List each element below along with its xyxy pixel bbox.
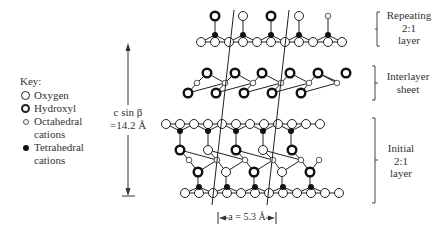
legend-item-octahedral: Octahedral (20, 115, 84, 128)
legend-item-octahedral-line2: cations (20, 128, 84, 141)
octahedral-cation (325, 13, 331, 19)
octahedral-cation (242, 157, 248, 163)
hydroxyl-atom (203, 69, 212, 78)
hydroxyl-atom (342, 69, 351, 78)
hydroxyl-atom (306, 168, 315, 177)
hydroxyl-atom (184, 89, 193, 98)
oxygen-atom (321, 189, 330, 198)
oxygen-atom (309, 38, 318, 47)
octahedral-cation (270, 157, 276, 163)
tetrahedral-cation (224, 184, 230, 190)
tetrahedral-cation (325, 32, 331, 38)
hydroxyl-atom (297, 89, 306, 98)
oxygen-atom (316, 120, 325, 129)
a-dimension-label: a = 5.3 Å (226, 211, 268, 224)
tetrahedral-cation (212, 32, 218, 38)
oxygen-atom (239, 38, 248, 47)
repeating-layer-label: Repeating 2:1 layer (381, 9, 437, 47)
hydroxyl-atom (267, 12, 276, 21)
oxygen-atom (237, 189, 246, 198)
bracket-interlayer (372, 66, 378, 100)
bracket-repeating (375, 12, 380, 46)
octahedral-cation (316, 157, 322, 163)
tetrahedral-cation (308, 184, 314, 190)
tetrahedral-cation (177, 128, 183, 134)
hydroxyl-atom (258, 69, 267, 78)
legend-item-tetrahedral: Tetrahedral (20, 141, 84, 154)
legend-item-hydroxyl: Hydroxyl (20, 102, 84, 115)
tetrahedral-cation (205, 128, 211, 134)
initial-line2: 2:1 (379, 155, 423, 168)
octahedral-cation (334, 80, 340, 86)
tetrahedral-cation (268, 32, 274, 38)
oxygen-atom (338, 38, 347, 47)
oxygen-atom (295, 38, 304, 47)
octahedral-cation (222, 80, 228, 86)
oxygen-atom (225, 38, 234, 47)
tetrahedral-cation (240, 32, 246, 38)
hydroxyl-atom (314, 69, 323, 78)
oxygen-atom (204, 120, 213, 129)
oxygen-atom (232, 120, 241, 129)
octahedral-cation (194, 80, 200, 86)
repeating-line1: Repeating (381, 9, 437, 22)
oxygen-atom (222, 168, 231, 177)
c-sin-beta-line1: c sin β (104, 106, 152, 119)
interlayer-line2: sheet (379, 83, 437, 96)
oxygen-atom (295, 12, 304, 21)
oxygen-atom (211, 38, 220, 47)
hydroxyl-atom (288, 146, 297, 155)
initial-line1: Initial (379, 142, 423, 155)
tetrahedral-cation (252, 184, 258, 190)
c-sin-beta-label: c sin β =14.2 Å (104, 106, 152, 131)
hydroxyl-atom (231, 69, 240, 78)
oxygen-atom (260, 120, 269, 129)
octahedral-small-circle-icon (23, 119, 29, 125)
octahedral-cation (306, 80, 312, 86)
hydroxyl-atom (211, 12, 220, 21)
oxygen-atom (302, 120, 311, 129)
tetrahedral-cation (196, 184, 202, 190)
hydroxyl-atom (240, 89, 249, 98)
hydroxyl-atom (286, 69, 295, 78)
interlayer-line1: Interlayer (379, 70, 437, 83)
oxygen-atom (267, 38, 276, 47)
oxygen-atom (246, 120, 255, 129)
tetrahedral-cation (296, 32, 302, 38)
tetrahedral-cation (288, 128, 294, 134)
oxygen-atom (197, 38, 206, 47)
oxygen-atom (239, 12, 248, 21)
c-sin-beta-line2: =14.2 Å (104, 119, 152, 132)
repeating-line2: 2:1 (381, 22, 437, 35)
legend-title: Key: (20, 75, 84, 88)
initial-line3: layer (379, 167, 423, 180)
bracket-initial (372, 118, 378, 203)
octahedral-cation (250, 80, 256, 86)
oxygen-atom (190, 120, 199, 129)
hydroxyl-atom (212, 89, 221, 98)
oxygen-atom (278, 168, 287, 177)
oxygen-atom (218, 120, 227, 129)
hydroxyl-atom (194, 168, 203, 177)
atoms (162, 12, 351, 198)
legend: Key: Oxygen Hydroxyl Octahedral cations … (20, 75, 84, 167)
repeating-line3: layer (381, 34, 437, 47)
oxygen-atom (259, 146, 268, 155)
oxygen-atom (162, 120, 171, 129)
hydroxyl-atom (268, 89, 277, 98)
oxygen-atom (253, 38, 262, 47)
oxygen-atom (176, 120, 185, 129)
initial-layer-label: Initial 2:1 layer (379, 142, 423, 180)
interlayer-sheet-label: Interlayer sheet (379, 70, 437, 95)
hydroxyl-atom (176, 146, 185, 155)
oxygen-atom (204, 146, 213, 155)
a-dimension-text: a = 5.3 Å (228, 211, 265, 222)
tetrahedral-cation (260, 128, 266, 134)
hydroxyl-atom (250, 168, 259, 177)
oxygen-atom (288, 120, 297, 129)
hydroxyl-thick-circle-icon (21, 104, 30, 113)
legend-item-tetrahedral-line2: cations (20, 154, 84, 167)
oxygen-atom (324, 38, 333, 47)
tetrahedral-filled-circle-icon (23, 145, 29, 151)
oxygen-atom (335, 189, 344, 198)
